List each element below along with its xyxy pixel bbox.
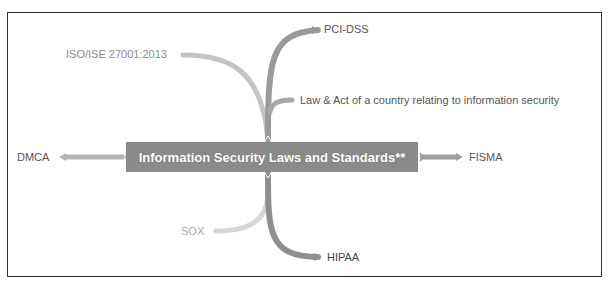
node-label: Law & Act of a country relating to infor… xyxy=(300,94,559,106)
node-hipaa[interactable]: HIPAA xyxy=(327,251,359,264)
node-law-act[interactable]: Law & Act of a country relating to infor… xyxy=(300,94,559,107)
node-sox[interactable]: SOX xyxy=(181,225,204,238)
central-topic-node[interactable]: Information Security Laws and Standards*… xyxy=(126,142,418,172)
node-pci-dss[interactable]: PCI-DSS xyxy=(324,23,369,36)
node-label: DMCA xyxy=(17,151,49,163)
node-label: ISO/ISE 27001:2013 xyxy=(66,48,167,60)
connector-sox xyxy=(216,196,268,231)
central-topic-label: Information Security Laws and Standards*… xyxy=(139,150,406,165)
connector-hipaa xyxy=(268,174,318,257)
node-label: SOX xyxy=(181,225,204,237)
node-label: PCI-DSS xyxy=(324,23,369,35)
node-label: HIPAA xyxy=(327,251,359,263)
connector-iso xyxy=(183,55,268,140)
node-label: FISMA xyxy=(469,151,503,163)
node-iso-27001[interactable]: ISO/ISE 27001:2013 xyxy=(66,48,167,61)
node-dmca[interactable]: DMCA xyxy=(17,151,49,164)
connector-pci xyxy=(268,30,318,140)
node-fisma[interactable]: FISMA xyxy=(469,151,503,164)
